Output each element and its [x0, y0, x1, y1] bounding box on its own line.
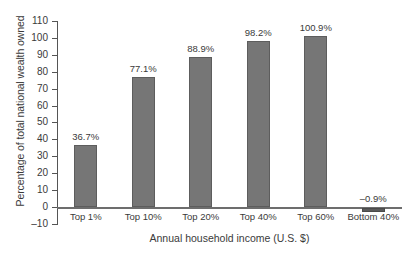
bar	[74, 145, 97, 207]
x-axis-tick-label: Bottom 40%	[339, 212, 407, 222]
bar	[189, 57, 212, 207]
y-axis-tick-label: 50	[4, 117, 48, 127]
x-axis-zero-baseline	[57, 207, 402, 209]
y-axis-tick-label: 70	[4, 84, 48, 94]
y-axis-tick-mark	[52, 106, 57, 107]
y-axis-tick-label: 60	[4, 101, 48, 111]
bar-value-label: 88.9%	[175, 44, 227, 54]
bar-value-label: 100.9%	[290, 23, 342, 33]
bar-value-label: 77.1%	[117, 64, 169, 74]
y-axis-tick-label: 80	[4, 67, 48, 77]
y-axis-tick-label: 90	[4, 50, 48, 60]
y-axis-tick-mark	[52, 156, 57, 157]
bar-value-label: 98.2%	[232, 28, 284, 38]
y-axis-tick-mark	[52, 38, 57, 39]
y-axis-tick-mark	[52, 224, 57, 225]
y-axis-line	[57, 21, 58, 225]
y-axis-tick-label: 10	[4, 185, 48, 195]
bar	[304, 36, 327, 207]
y-axis-tick-mark	[52, 89, 57, 90]
y-axis-tick-mark	[52, 207, 57, 208]
y-axis-tick-label: 100	[4, 33, 48, 43]
y-axis-tick-label: 20	[4, 168, 48, 178]
bar	[247, 41, 270, 207]
bar	[132, 77, 155, 207]
bar-chart-figure: Percentage of total national wealth owne…	[0, 0, 409, 261]
y-axis-tick-label: –10	[4, 219, 48, 229]
y-axis-tick-mark	[52, 190, 57, 191]
y-axis-tick-mark	[52, 21, 57, 22]
y-axis-tick-label: 0	[4, 202, 48, 212]
y-axis-tick-label: 40	[4, 134, 48, 144]
y-axis-tick-mark	[52, 139, 57, 140]
y-axis-tick-label: 110	[4, 16, 48, 26]
y-axis-tick-mark	[52, 122, 57, 123]
bar-value-label: –0.9%	[347, 194, 399, 204]
bar-value-label: 36.7%	[60, 132, 112, 142]
y-axis-tick-mark	[52, 72, 57, 73]
y-axis-tick-label: 30	[4, 151, 48, 161]
x-axis-title: Annual household income (U.S. $)	[57, 232, 402, 244]
y-axis-tick-mark	[52, 173, 57, 174]
y-axis-tick-mark	[52, 55, 57, 56]
